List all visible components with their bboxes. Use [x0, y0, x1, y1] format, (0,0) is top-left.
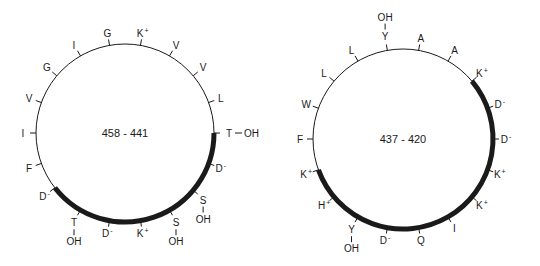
tick-mark: [109, 39, 110, 45]
wheel-right: 437 - 420 YOHAAK+D-D-K+K+IQD-YOHH+K+FWLL: [297, 12, 512, 255]
positive-charge: +: [502, 168, 506, 175]
residue-letter: D-: [494, 98, 505, 110]
positive-charge: +: [145, 27, 149, 34]
positive-charge: +: [326, 199, 330, 206]
residue-t: TOH: [67, 210, 82, 247]
positive-charge: +: [145, 227, 149, 234]
tick-mark: [36, 163, 42, 165]
negative-charge: -: [388, 234, 391, 241]
residue-v: V: [26, 93, 42, 104]
negative-charge: -: [48, 190, 51, 197]
residue-letter: V: [173, 40, 180, 51]
residue-letter: K+: [137, 227, 149, 239]
residue-k: K+: [137, 27, 149, 46]
residue-f: F: [26, 163, 41, 174]
residue-letter: I: [73, 40, 76, 51]
residue-d: D-: [493, 133, 512, 145]
tick-mark: [209, 101, 215, 103]
residue-letter: L: [321, 68, 327, 79]
residue-w: W: [301, 99, 318, 110]
residue-d: D-: [488, 98, 506, 110]
residue-letter: D-: [39, 190, 50, 202]
residue-letter: A: [451, 45, 458, 56]
helical-wheel-diagram: 458 - 441 GK+VVLTOHD-SOHSOHK+D-TOHD-FIVG…: [0, 0, 540, 266]
positive-charge: +: [484, 199, 488, 206]
residue-f: F: [297, 134, 313, 145]
residue-letter: L: [218, 93, 224, 104]
residue-letter: D-: [501, 133, 512, 145]
tick-mark: [355, 56, 358, 61]
negative-charge: -: [503, 98, 506, 105]
residue-letter: Y: [382, 31, 389, 42]
residue-letter: K+: [300, 168, 312, 180]
tick-mark: [419, 44, 420, 50]
tick-mark: [193, 72, 198, 76]
tick-mark: [36, 101, 42, 103]
residue-y: YOH: [378, 12, 393, 51]
residue-letter: D-: [102, 227, 113, 239]
tick-mark: [448, 56, 451, 61]
residue-range-label: 458 - 441: [102, 127, 148, 139]
residue-letter: G: [43, 62, 51, 73]
residue-letter: F: [297, 134, 303, 145]
residue-t: TOH: [214, 128, 259, 139]
residue-h: H+: [318, 197, 334, 211]
residue-g: G: [103, 28, 111, 46]
residue-letter: K+: [476, 67, 488, 79]
residue-v: V: [193, 62, 207, 75]
tick-mark: [78, 51, 81, 56]
residue-letter: F: [26, 163, 32, 174]
residue-k: K+: [472, 197, 488, 211]
residue-s: SOH: [169, 210, 184, 247]
residue-letter: V: [200, 62, 207, 73]
residue-d: D-: [39, 188, 55, 202]
residue-l: L: [209, 93, 224, 104]
residue-q: Q: [417, 228, 425, 247]
residue-letter: H+: [318, 199, 330, 211]
residue-letter: D-: [216, 162, 227, 174]
tick-mark: [140, 39, 141, 45]
negative-charge: -: [224, 162, 227, 169]
residue-l: L: [321, 68, 334, 81]
residue-k: K+: [488, 168, 506, 180]
tick-mark: [329, 77, 334, 81]
tick-mark: [52, 72, 57, 76]
hydroxyl-label: OH: [196, 214, 211, 225]
negative-charge: -: [509, 133, 512, 140]
residue-letter: G: [103, 28, 111, 39]
residue-a: A: [418, 33, 425, 51]
residue-i: I: [448, 217, 456, 234]
residue-range-label: 437 - 420: [380, 133, 426, 145]
hydroxyl-label: OH: [67, 236, 82, 247]
residue-letter: K+: [476, 199, 488, 211]
residue-letter: K+: [137, 27, 149, 39]
positive-charge: +: [308, 168, 312, 175]
residue-a: A: [448, 45, 458, 61]
residue-letter: T: [226, 128, 232, 139]
hydroxyl-label: OH: [344, 243, 359, 254]
wheel-left: 458 - 441 GK+VVLTOHD-SOHSOHK+D-TOHD-FIVG…: [22, 27, 259, 248]
residue-letter: W: [301, 99, 311, 110]
hydroxyl-label: OH: [244, 128, 259, 139]
negative-charge: -: [110, 227, 113, 234]
residue-letter: S: [200, 195, 207, 206]
residue-letter: Q: [417, 235, 425, 246]
residue-s: SOH: [193, 190, 210, 224]
residue-g: G: [43, 62, 57, 75]
hydrophilic-face-arc: [55, 133, 214, 222]
residue-letter: I: [22, 128, 25, 139]
hydrophilic-face-arc: [318, 81, 493, 229]
residue-letter: I: [453, 223, 456, 234]
residue-letter: A: [418, 33, 425, 44]
residue-v: V: [170, 40, 180, 56]
residue-k: K+: [300, 168, 318, 180]
residue-l: L: [349, 45, 358, 61]
residue-letter: T: [71, 217, 77, 228]
residue-letter: K+: [494, 168, 506, 180]
tick-mark: [313, 106, 319, 108]
positive-charge: +: [484, 67, 488, 74]
residue-letter: L: [349, 45, 355, 56]
residue-letter: D-: [380, 234, 391, 246]
residue-i: I: [22, 128, 36, 139]
residue-k: K+: [472, 67, 488, 81]
